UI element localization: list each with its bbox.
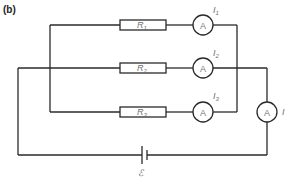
resistor-r3: R3: [120, 107, 166, 118]
circuit-diagram: (b) R1 R2 R3: [0, 0, 296, 188]
svg-text:I: I: [282, 107, 285, 117]
svg-text:A: A: [200, 64, 206, 74]
ammeter-3: A I3: [193, 91, 220, 122]
panel-label: (b): [3, 4, 16, 15]
ammeter-2: A I2: [193, 48, 220, 78]
emf-label: ℰ: [138, 168, 145, 178]
svg-text:I3: I3: [213, 91, 220, 102]
svg-text:I1: I1: [213, 5, 219, 16]
svg-text:I2: I2: [213, 48, 220, 59]
svg-text:A: A: [200, 108, 206, 118]
wires: [18, 25, 267, 155]
svg-text:A: A: [200, 21, 206, 31]
svg-text:A: A: [264, 108, 270, 118]
resistor-r2: R2: [120, 63, 166, 74]
ammeter-total: A I: [257, 102, 285, 122]
resistor-r1: R1: [120, 20, 166, 31]
battery-cell: ℰ: [138, 146, 148, 178]
ammeter-1: A I1: [193, 5, 219, 35]
